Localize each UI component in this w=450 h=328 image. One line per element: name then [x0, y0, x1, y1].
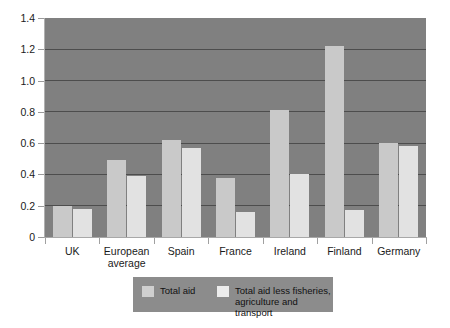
- y-axis-tick-label: 0.2: [0, 201, 35, 212]
- x-axis-label-uk: UK: [45, 246, 99, 258]
- gridline: [45, 80, 426, 81]
- y-axis-tick-label: 1.4: [0, 13, 35, 24]
- x-axis-tick: [317, 238, 318, 244]
- bar-uk-series-0: [53, 206, 72, 237]
- bar-finland-series-0: [325, 46, 344, 237]
- legend-swatch-total-aid: [142, 286, 154, 297]
- y-axis-tick: [38, 174, 44, 175]
- bar-finland-series-1: [345, 210, 364, 237]
- x-axis-label-finland: Finland: [317, 246, 371, 258]
- bar-european-average-series-1: [127, 176, 146, 237]
- x-axis-tick: [372, 238, 373, 244]
- gridline: [45, 143, 426, 144]
- bar-uk-series-1: [73, 209, 92, 237]
- y-axis-tick: [38, 237, 44, 238]
- y-axis-tick: [38, 81, 44, 82]
- x-axis-tick: [45, 238, 46, 244]
- plot-area: [45, 18, 426, 237]
- legend-label-total-aid-less: Total aid less fisheries, agriculture an…: [235, 285, 333, 318]
- gridline: [45, 174, 426, 175]
- gridline: [45, 111, 426, 112]
- legend-label-total-aid: Total aid: [160, 285, 195, 296]
- y-axis-tick: [38, 143, 44, 144]
- legend-entry-total-aid: Total aid: [142, 285, 195, 297]
- bar-germany-series-0: [379, 143, 398, 237]
- x-axis-label-germany: Germany: [372, 246, 426, 258]
- x-axis-tick: [99, 238, 100, 244]
- x-axis-label-ireland: Ireland: [263, 246, 317, 258]
- legend-swatch-total-aid-less: [217, 286, 229, 297]
- y-axis-tick-label: 0: [0, 232, 35, 243]
- y-axis-tick-label: 0.8: [0, 107, 35, 118]
- bar-chart: Total aid Total aid less fisheries, agri…: [0, 0, 450, 328]
- chart-legend: Total aid Total aid less fisheries, agri…: [133, 277, 333, 312]
- x-axis-tick: [263, 238, 264, 244]
- bar-ireland-series-0: [270, 110, 289, 237]
- y-axis-tick-label: 1.2: [0, 44, 35, 55]
- bar-european-average-series-0: [107, 160, 126, 237]
- bar-germany-series-1: [399, 146, 418, 237]
- y-axis-tick: [38, 49, 44, 50]
- y-axis-tick-label: 1.0: [0, 76, 35, 87]
- legend-entry-total-aid-less: Total aid less fisheries, agriculture an…: [217, 285, 333, 318]
- x-axis-tick: [426, 238, 427, 244]
- x-axis-label-spain: Spain: [154, 246, 208, 258]
- y-axis-tick-label: 0.6: [0, 138, 35, 149]
- bar-spain-series-1: [182, 148, 201, 237]
- bar-france-series-1: [236, 212, 255, 237]
- y-axis-tick: [38, 206, 44, 207]
- x-axis-line: [44, 237, 427, 238]
- x-axis-tick: [208, 238, 209, 244]
- bar-france-series-0: [216, 178, 235, 237]
- gridline: [45, 205, 426, 206]
- y-axis-tick-label: 0.4: [0, 169, 35, 180]
- gridline: [45, 49, 426, 50]
- y-axis-tick: [38, 112, 44, 113]
- y-axis-tick: [38, 18, 44, 19]
- bar-ireland-series-1: [290, 174, 309, 237]
- y-axis-line: [44, 18, 45, 238]
- x-axis-label-france: France: [208, 246, 262, 258]
- x-axis-label-european-average: European average: [99, 246, 153, 269]
- bar-spain-series-0: [162, 140, 181, 237]
- x-axis-tick: [154, 238, 155, 244]
